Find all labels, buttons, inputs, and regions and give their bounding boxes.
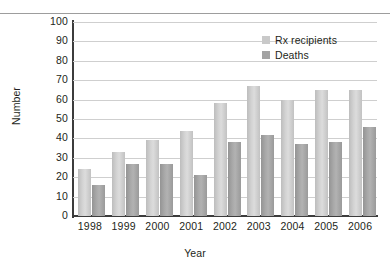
bar-group	[144, 22, 173, 216]
bar-deaths-2006	[363, 127, 376, 216]
legend-label: Deaths	[275, 49, 309, 61]
bar-deaths-2002	[228, 142, 241, 216]
chart-legend: Rx recipientsDeaths	[262, 33, 384, 63]
y-tick-label: 10	[8, 191, 68, 202]
y-tick-label: 70	[8, 74, 68, 85]
bar-group	[110, 22, 139, 216]
bar-chart-figure: Number Year 0102030405060708090100 19981…	[0, 0, 390, 270]
legend-swatch-icon	[262, 36, 270, 44]
bar-rx-recipients-1999	[112, 152, 125, 216]
y-tick-label: 100	[8, 16, 68, 27]
bar-group	[76, 22, 105, 216]
bar-deaths-2005	[329, 142, 342, 216]
x-tick-label: 2006	[340, 220, 380, 232]
legend-item: Deaths	[262, 48, 384, 62]
y-tick-label: 50	[8, 113, 68, 124]
bar-rx-recipients-2004	[281, 100, 294, 216]
bar-deaths-1999	[126, 164, 139, 216]
x-axis-tick-labels: 199819992000200120022003200420052006	[73, 220, 377, 236]
bar-deaths-2000	[160, 164, 173, 216]
legend-label: Rx recipients	[275, 34, 337, 46]
bar-group	[212, 22, 241, 216]
top-divider-rule	[0, 13, 390, 14]
bar-deaths-2004	[295, 144, 308, 216]
bar-rx-recipients-2005	[315, 90, 328, 216]
x-axis-title: Year	[0, 247, 390, 259]
bar-rx-recipients-2003	[247, 86, 260, 216]
bar-deaths-2003	[261, 135, 274, 216]
legend-item: Rx recipients	[262, 33, 384, 47]
bar-rx-recipients-2001	[180, 131, 193, 216]
bar-deaths-2001	[194, 175, 207, 216]
bar-deaths-1998	[92, 185, 105, 216]
y-tick-label: 20	[8, 171, 68, 182]
y-tick-label: 30	[8, 152, 68, 163]
bar-rx-recipients-1998	[78, 169, 91, 216]
bar-rx-recipients-2006	[349, 90, 362, 216]
y-tick-label: 0	[8, 210, 68, 221]
y-tick-label: 60	[8, 94, 68, 105]
y-tick-label: 80	[8, 55, 68, 66]
y-axis-tick-labels: 0102030405060708090100	[6, 22, 68, 216]
y-tick-label: 40	[8, 132, 68, 143]
bar-rx-recipients-2000	[146, 140, 159, 216]
legend-swatch-icon	[262, 51, 270, 59]
y-tick-label: 90	[8, 35, 68, 46]
bar-group	[178, 22, 207, 216]
bar-rx-recipients-2002	[214, 103, 227, 216]
